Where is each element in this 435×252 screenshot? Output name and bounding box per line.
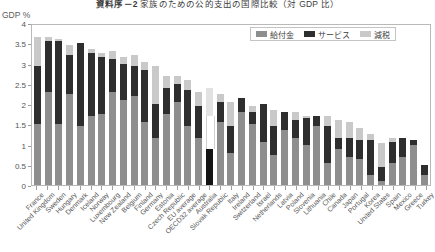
bar-column[interactable] xyxy=(226,25,237,185)
bar-segment-cash xyxy=(399,157,406,185)
bar-column[interactable] xyxy=(419,25,430,185)
bar-column[interactable] xyxy=(193,25,204,185)
y-axis-tick-label: 0 xyxy=(0,182,26,191)
bar-column[interactable] xyxy=(236,25,247,185)
y-axis-tick-label: 3 xyxy=(0,60,26,69)
bar-column[interactable] xyxy=(269,25,280,185)
bar-segment-tax xyxy=(270,110,277,126)
bar-column[interactable] xyxy=(301,25,312,185)
bar-column[interactable] xyxy=(247,25,258,185)
bar-segment-tax xyxy=(174,76,181,84)
y-axis-tick-label: 2.5 xyxy=(0,80,26,89)
legend-item[interactable]: 減税 xyxy=(360,29,390,40)
bar-column[interactable] xyxy=(290,25,301,185)
bar-stack xyxy=(98,53,105,185)
bar-column[interactable] xyxy=(279,25,290,185)
bar-segment-cash xyxy=(421,175,428,185)
bar-column[interactable] xyxy=(118,25,129,185)
bar-column[interactable] xyxy=(322,25,333,185)
bar-segment-service xyxy=(195,106,202,138)
bar-segment-cash xyxy=(45,92,52,185)
bar-segment-cash xyxy=(378,181,385,185)
bar-stack xyxy=(249,106,256,185)
bar-column[interactable] xyxy=(355,25,366,185)
bar-stack xyxy=(260,104,267,185)
bar-stack xyxy=(335,120,342,185)
bar-column[interactable] xyxy=(54,25,65,185)
bar-segment-cash xyxy=(227,153,234,185)
bar-segment-cash xyxy=(174,102,181,185)
bar-segment-tax xyxy=(378,143,385,167)
bar-column[interactable] xyxy=(86,25,97,185)
bar-segment-cash xyxy=(184,126,191,185)
bar-segment-cash xyxy=(88,116,95,185)
bar-segment-service xyxy=(270,126,277,154)
bar-column[interactable] xyxy=(312,25,323,185)
bar-column[interactable] xyxy=(172,25,183,185)
bar-column[interactable] xyxy=(204,25,215,185)
bar-column[interactable] xyxy=(365,25,376,185)
bar-series-container xyxy=(32,25,430,185)
legend-item[interactable]: サービス xyxy=(304,29,350,40)
bar-segment-tax xyxy=(346,122,353,138)
legend-swatch-service xyxy=(304,31,315,37)
bar-segment-service xyxy=(98,57,105,114)
legend-swatch-tax xyxy=(360,31,371,37)
y-axis-tick-label: 1 xyxy=(0,141,26,150)
bar-column[interactable] xyxy=(64,25,75,185)
bar-segment-service xyxy=(303,118,310,144)
legend-item[interactable]: 給付金 xyxy=(256,29,294,40)
bar-stack xyxy=(120,57,127,185)
bar-column[interactable] xyxy=(75,25,86,185)
bar-column[interactable] xyxy=(258,25,269,185)
legend-label: 給付金 xyxy=(270,29,294,40)
bar-column[interactable] xyxy=(107,25,118,185)
bar-column[interactable] xyxy=(408,25,419,185)
bar-column[interactable] xyxy=(43,25,54,185)
bar-segment-service xyxy=(238,98,245,112)
bar-stack xyxy=(152,66,159,185)
bar-column[interactable] xyxy=(183,25,194,185)
figure-title: 資料序－2 家族のための公的支出の国際比較（対 GDP 比） xyxy=(0,0,435,9)
bar-segment-cash xyxy=(141,122,148,185)
bar-stack xyxy=(346,122,353,185)
bar-stack xyxy=(389,138,396,185)
bar-segment-cash xyxy=(55,124,62,185)
bar-stack xyxy=(184,80,191,185)
chart-legend: 給付金サービス減税 xyxy=(250,27,396,41)
bar-column[interactable] xyxy=(150,25,161,185)
bar-segment-service xyxy=(367,140,374,174)
bar-column[interactable] xyxy=(344,25,355,185)
bar-stack xyxy=(195,92,202,185)
bar-segment-service xyxy=(378,167,385,181)
bar-stack xyxy=(421,165,428,185)
bar-stack xyxy=(227,102,234,185)
bar-column[interactable] xyxy=(387,25,398,185)
bar-segment-cash xyxy=(313,126,320,185)
bar-column[interactable] xyxy=(398,25,409,185)
y-axis-unit-label: GDP % xyxy=(2,10,30,20)
bar-segment-cash xyxy=(238,112,245,185)
y-axis-tick-label: 1.5 xyxy=(0,121,26,130)
bar-segment-cash xyxy=(120,100,127,185)
bar-segment-tax xyxy=(335,120,342,138)
bar-segment-tax xyxy=(163,76,170,88)
bar-column[interactable] xyxy=(129,25,140,185)
bar-column[interactable] xyxy=(161,25,172,185)
bar-segment-tax xyxy=(141,62,148,70)
bar-stack xyxy=(238,98,245,185)
bar-segment-cash xyxy=(324,163,331,185)
bar-stack xyxy=(292,112,299,185)
bar-segment-cash xyxy=(206,149,213,185)
bar-segment-service xyxy=(356,140,363,158)
bar-column[interactable] xyxy=(97,25,108,185)
bar-segment-cash xyxy=(292,138,299,185)
bar-column[interactable] xyxy=(376,25,387,185)
bar-stack xyxy=(77,43,84,185)
bar-column[interactable] xyxy=(32,25,43,185)
bar-column[interactable] xyxy=(215,25,226,185)
bar-segment-service xyxy=(55,41,62,124)
bar-segment-cash xyxy=(77,126,84,185)
bar-column[interactable] xyxy=(333,25,344,185)
bar-column[interactable] xyxy=(140,25,151,185)
